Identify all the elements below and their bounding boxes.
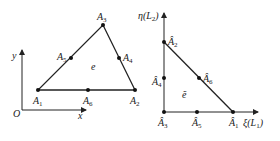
reference-element-label: ẽ (182, 89, 187, 100)
node-a4 (117, 56, 121, 60)
node-a5 (69, 56, 73, 60)
node-a1-hat (231, 110, 235, 114)
triangle-element-mapping-diagram: O x y e A1 A2 A3 A4 A5 A6 η(L2) ξ(L1) ẽ … (0, 0, 280, 141)
eta-axis-label: η(L2) (138, 10, 159, 23)
node-label-a6: A6 (82, 95, 93, 108)
node-a2-hat (162, 40, 166, 44)
node-a5-hat (195, 110, 199, 114)
node-label-a6-hat: Â6 (202, 73, 213, 86)
node-label-a1-hat: Â1 (228, 117, 239, 130)
node-label-a2: A2 (129, 95, 140, 108)
node-a6-hat (197, 76, 201, 80)
reference-element-figure: η(L2) ξ(L1) ẽ Â1 Â2 Â3 Â4 Â5 Â6 (138, 10, 264, 130)
node-label-a4: A4 (122, 52, 133, 65)
y-axis-label: y (11, 50, 17, 61)
physical-element-figure: O x y e A1 A2 A3 A4 A5 A6 (11, 11, 140, 121)
node-a2 (133, 88, 137, 92)
node-a6 (86, 88, 90, 92)
origin-label: O (13, 108, 20, 119)
node-label-a5: A5 (56, 51, 67, 64)
node-label-a4-hat: Â4 (151, 76, 162, 89)
node-label-a1: A1 (32, 95, 43, 108)
node-label-a3: A3 (96, 11, 107, 24)
node-a1 (36, 88, 40, 92)
node-label-a3-hat: Â3 (157, 117, 168, 130)
xi-axis-label: ξ(L1) (243, 117, 264, 130)
node-label-a5-hat: Â5 (191, 117, 202, 130)
node-a3-hat (162, 110, 166, 114)
node-a4-hat (162, 76, 166, 80)
x-axis-label: x (77, 110, 83, 121)
element-label: e (91, 61, 96, 72)
